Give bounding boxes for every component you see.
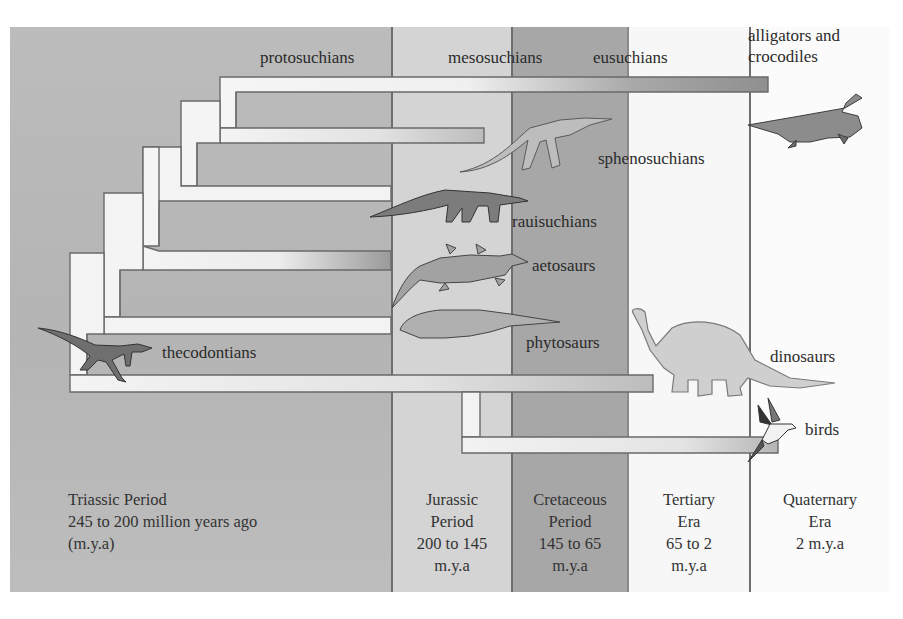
label-alligators-line1: alligators and [748,26,840,46]
branch-rauisuchians [143,147,391,201]
branch-phytosaurs [104,317,391,334]
label-mesosuchians: mesosuchians [448,48,542,68]
branch-rauisuchians-step [143,147,159,246]
period-jurassic: Jurassic Period 200 to 145 m.y.a [392,489,512,577]
period-tertiary-name: Tertiary [628,489,750,511]
branch-birds-link [462,392,480,437]
period-jurassic-unit: m.y.a [392,555,512,577]
period-cretaceous-range: 145 to 65 [512,533,628,555]
label-birds: birds [805,420,839,440]
period-quaternary: Quaternary Era 2 m.y.a [750,489,890,555]
period-cretaceous-unit: m.y.a [512,555,628,577]
label-alligators-line2: crocodiles [748,47,818,67]
branch-protosuchians-stub [220,128,484,143]
period-triassic-unit: (m.y.a) [68,533,257,555]
period-cretaceous: Cretaceous Period 145 to 65 m.y.a [512,489,628,577]
branch-phytosaurs-link [104,193,143,317]
branch-birds [462,437,778,453]
period-tertiary-type: Era [628,511,750,533]
branch-aetosaurs [143,246,391,270]
branch-crocodiles [220,77,768,128]
period-jurassic-range: 200 to 145 [392,533,512,555]
branch-sphenosuchians-link [181,101,220,186]
label-rauisuchians: rauisuchians [512,212,597,232]
thecodont-illustration [38,328,152,382]
crocodile-illustration [748,94,862,148]
rauisuchian-illustration [370,190,528,222]
period-quaternary-range: 2 m.y.a [750,533,890,555]
period-cretaceous-name: Cretaceous [512,489,628,511]
period-tertiary: Tertiary Era 65 to 2 m.y.a [628,489,750,577]
period-triassic: Triassic Period 245 to 200 million years… [68,489,257,555]
label-phytosaurs: phytosaurs [526,333,600,353]
period-cretaceous-type: Period [512,511,628,533]
label-aetosaurs: aetosaurs [532,256,595,276]
label-sphenosuchians: sphenosuchians [598,149,705,169]
evolution-diagram: protosuchians mesosuchians eusuchians al… [10,27,890,592]
period-triassic-name: Triassic Period [68,489,257,511]
period-triassic-range: 245 to 200 million years ago [68,511,257,533]
label-thecodontians: thecodontians [162,343,256,363]
period-quaternary-name: Quaternary [750,489,890,511]
branch-dinosaurs [70,375,653,392]
period-tertiary-unit: m.y.a [628,555,750,577]
label-eusuchians: eusuchians [593,48,668,68]
period-tertiary-range: 65 to 2 [628,533,750,555]
label-dinosaurs: dinosaurs [770,347,835,367]
aetosaur-illustration [392,244,528,308]
label-protosuchians: protosuchians [260,48,354,68]
period-jurassic-type: Period [392,511,512,533]
period-jurassic-name: Jurassic [392,489,512,511]
sphenosuchian-illustration [460,118,612,172]
period-quaternary-type: Era [750,511,890,533]
